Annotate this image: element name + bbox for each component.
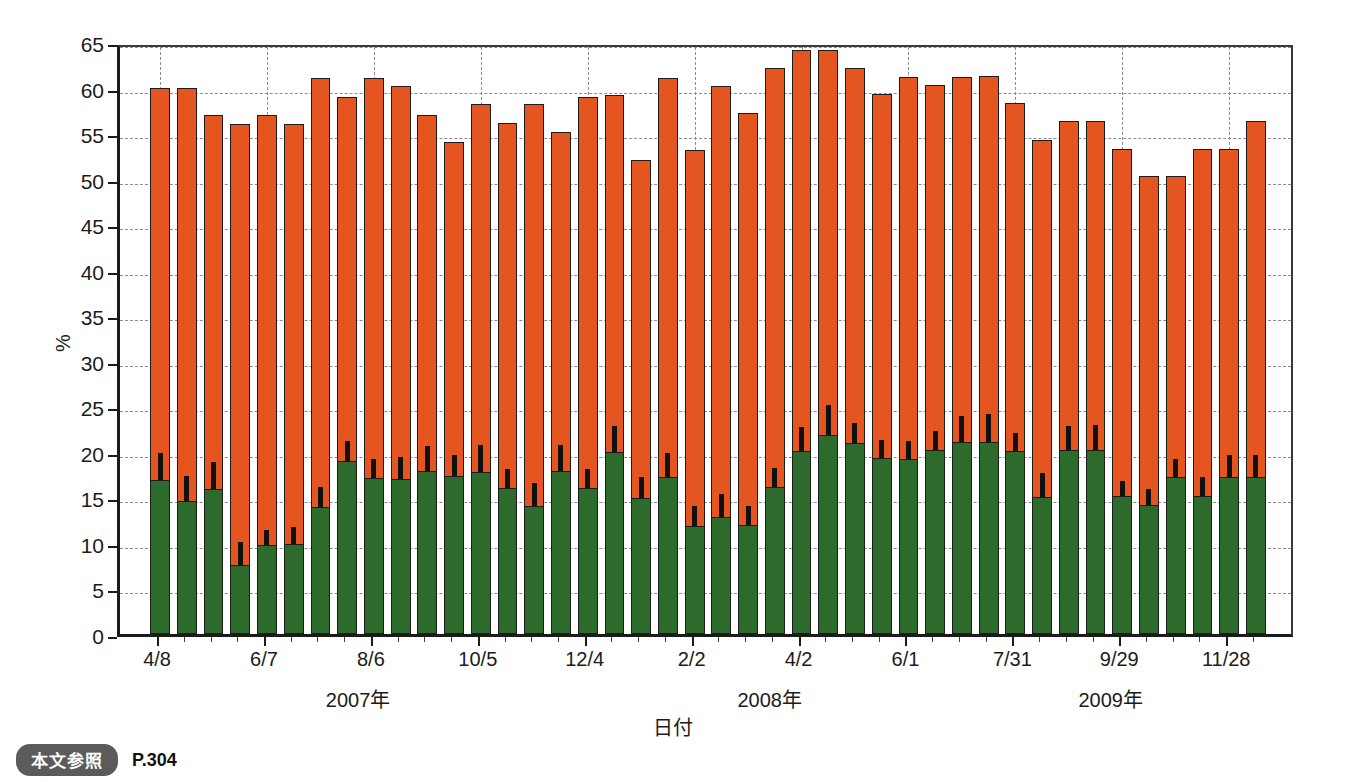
x-tick-label: 6/7 [219, 648, 309, 671]
x-tick-minor [1146, 637, 1147, 642]
x-tick-label: 10/5 [433, 648, 523, 671]
error-bar [1066, 426, 1071, 450]
y-axis-title: % [52, 334, 75, 352]
bar-group [1219, 42, 1239, 634]
caption-badge: 本文参照 [16, 744, 118, 776]
bar-group [738, 42, 758, 634]
x-tick-minor [852, 637, 853, 642]
x-tick-minor [772, 637, 773, 642]
bar-segment-lower [204, 489, 224, 634]
bar-group [364, 42, 384, 634]
error-bar [478, 445, 483, 471]
error-bar [558, 445, 563, 471]
error-bar [291, 527, 296, 544]
bar-segment-lower [337, 461, 357, 634]
bar-segment-lower [818, 435, 838, 634]
error-bar [585, 469, 590, 488]
error-bar [959, 416, 964, 442]
bar-group [417, 42, 437, 634]
bar-segment-lower [471, 472, 491, 634]
bar-segment-lower [1086, 450, 1106, 634]
y-tick-mark [108, 500, 117, 502]
x-tick-minor [291, 637, 292, 642]
bar-segment-lower [257, 545, 277, 634]
bar-group [1032, 42, 1052, 634]
y-tick-label: 15 [58, 489, 104, 510]
x-tick-minor [531, 637, 532, 642]
bar-segment-lower [417, 471, 437, 634]
error-bar [1013, 433, 1018, 451]
error-bar [906, 441, 911, 459]
error-bar [826, 405, 831, 434]
y-tick-mark [108, 45, 117, 47]
x-tick-minor [237, 637, 238, 642]
bar-group [765, 42, 785, 634]
bar-segment-lower [230, 565, 250, 634]
x-tick-minor [1039, 637, 1040, 642]
x-tick-minor [638, 637, 639, 642]
error-bar [639, 477, 644, 498]
bar-segment-lower [631, 498, 651, 634]
bar-segment-lower [1219, 477, 1239, 634]
x-axis-year-label: 2008年 [670, 684, 870, 713]
error-bar [532, 483, 537, 506]
y-tick-mark [108, 91, 117, 93]
y-tick-label: 55 [58, 125, 104, 146]
x-tick-label: 2/2 [647, 648, 737, 671]
x-tick-label: 11/28 [1181, 648, 1271, 671]
bar-group [899, 42, 919, 634]
y-tick-mark [108, 409, 117, 411]
x-tick-minor [1066, 637, 1067, 642]
bar-group [1246, 42, 1266, 634]
bar-group [685, 42, 705, 634]
x-tick-minor [745, 637, 746, 642]
x-tick-mark [799, 637, 801, 646]
y-tick-label: 0 [58, 626, 104, 647]
y-tick-label: 10 [58, 535, 104, 556]
bar-segment-lower [1059, 450, 1079, 634]
error-bar [879, 440, 884, 458]
x-tick-mark [371, 637, 373, 646]
error-bar [505, 469, 510, 488]
error-bar [425, 446, 430, 471]
x-tick-minor [398, 637, 399, 642]
x-tick-mark [1012, 637, 1014, 646]
x-tick-minor [718, 637, 719, 642]
bar-segment-lower [1166, 477, 1186, 634]
error-bar [398, 457, 403, 479]
bar-group [284, 42, 304, 634]
x-tick-minor [1253, 637, 1254, 642]
error-bar [1040, 473, 1045, 498]
error-bar [371, 459, 376, 478]
chart-page: 05101520253035404550556065 % 日付 本文参照 P.3… [0, 0, 1346, 782]
error-bar [1093, 425, 1098, 451]
y-tick-mark [108, 273, 117, 275]
bar-group [257, 42, 277, 634]
bar-segment-lower [925, 450, 945, 634]
bar-group [605, 42, 625, 634]
bar-group [204, 42, 224, 634]
bar-group [792, 42, 812, 634]
x-tick-minor [879, 637, 880, 642]
bar-segment-lower [765, 487, 785, 634]
y-tick-label: 60 [58, 80, 104, 101]
y-tick-mark [108, 591, 117, 593]
bar-group [1005, 42, 1025, 634]
bar-group [311, 42, 331, 634]
bar-segment-lower [1005, 451, 1025, 634]
x-tick-minor [558, 637, 559, 642]
x-tick-label: 6/1 [860, 648, 950, 671]
bar-group [1086, 42, 1106, 634]
caption: 本文参照 P.304 [16, 744, 177, 776]
x-tick-minor [825, 637, 826, 642]
bar-segment-lower [605, 452, 625, 634]
bar-group [631, 42, 651, 634]
x-tick-minor [1199, 637, 1200, 642]
y-tick-mark [108, 227, 117, 229]
bar-group [872, 42, 892, 634]
x-axis-year-label: 2009年 [1011, 684, 1211, 713]
bar-group [471, 42, 491, 634]
x-tick-mark [264, 637, 266, 646]
error-bar [1173, 459, 1178, 477]
x-tick-minor [611, 637, 612, 642]
